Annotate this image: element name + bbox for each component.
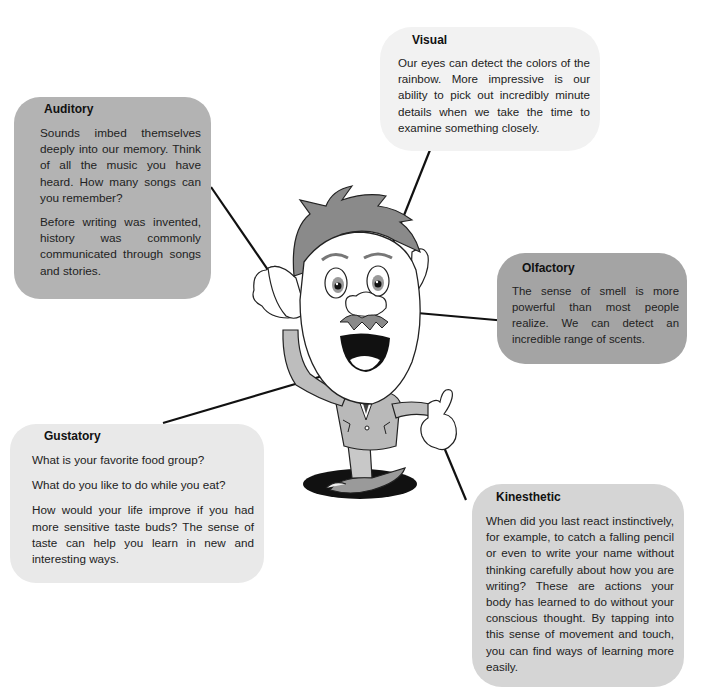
auditory-text-1: Sounds imbed themselves deeply into our … (40, 125, 201, 206)
gustatory-text-1: What is your favorite food group? (32, 452, 254, 468)
kinesthetic-sense-box: Kinesthetic When did you last react inst… (472, 484, 684, 687)
olfactory-title: Olfactory (522, 261, 679, 275)
auditory-text-2: Before writing was invented, history was… (40, 214, 201, 279)
gustatory-sense-box: Gustatory What is your favorite food gro… (10, 424, 264, 583)
auditory-title: Auditory (44, 102, 201, 116)
extended-arm (392, 402, 432, 418)
gustatory-text-2: What do you like to do while you eat? (32, 477, 254, 493)
visual-title: Visual (412, 33, 590, 47)
gustatory-text-3: How would your life improve if you had m… (32, 502, 254, 567)
gustatory-title: Gustatory (44, 429, 254, 443)
kinesthetic-title: Kinesthetic (496, 490, 674, 504)
open-hand (421, 390, 457, 450)
visual-text: Our eyes can detect the colors of the ra… (398, 55, 590, 136)
visual-sense-box: Visual Our eyes can detect the colors of… (380, 27, 600, 151)
kinesthetic-text: When did you last react instinctively, f… (486, 513, 674, 675)
auditory-sense-box: Auditory Sounds imbed themselves deeply … (14, 97, 211, 299)
olfactory-text: The sense of smell is more powerful than… (512, 283, 679, 347)
olfactory-sense-box: Olfactory The sense of smell is more pow… (497, 253, 687, 364)
